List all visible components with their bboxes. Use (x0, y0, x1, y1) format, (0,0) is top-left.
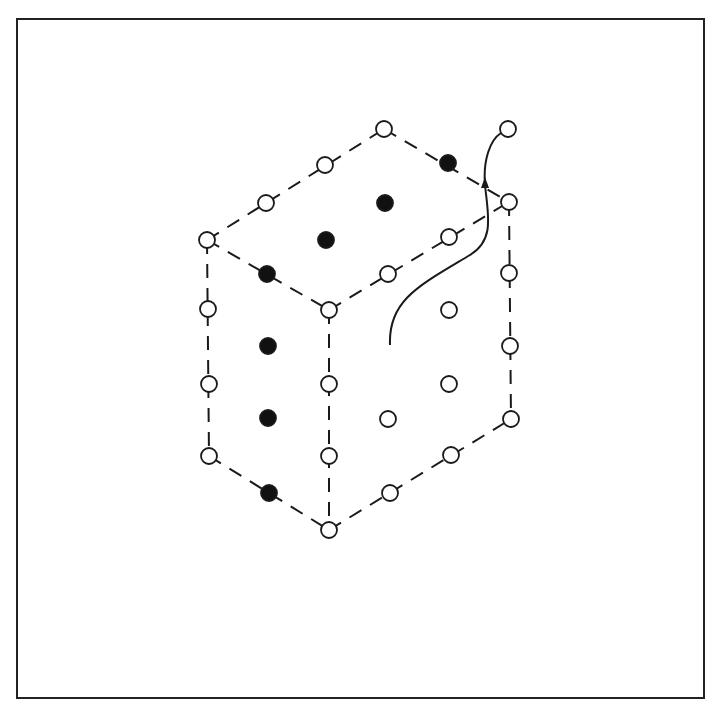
open-node-icon (258, 195, 274, 211)
open-node-icon (201, 376, 217, 392)
open-node-icon (441, 376, 457, 392)
open-node-icon (382, 485, 398, 501)
dashed-edge (329, 419, 511, 530)
filled-node-icon (377, 195, 393, 211)
open-node-icon (380, 266, 396, 282)
open-node-icon (321, 448, 337, 464)
filled-node-icon (318, 232, 334, 248)
open-node-icon (441, 229, 457, 245)
dashed-edge (509, 202, 511, 419)
filled-node-icon (261, 485, 277, 501)
filled-node-icon (260, 410, 276, 426)
open-node-icon (200, 301, 216, 317)
open-node-icon (321, 522, 337, 538)
open-node-icon (317, 157, 333, 173)
open-node-icon (441, 302, 457, 318)
dashed-edge (329, 202, 509, 310)
filled-node-icon (259, 266, 275, 282)
open-node-icon (502, 338, 518, 354)
open-node-icon (376, 121, 392, 137)
open-node-icon (501, 194, 517, 210)
filled-node-icon (440, 155, 456, 171)
lattice-nodes (199, 121, 519, 538)
arrowhead-icon (481, 177, 489, 188)
open-node-icon (503, 411, 519, 427)
filled-node-icon (260, 338, 276, 354)
open-node-icon (443, 447, 459, 463)
lattice-diagram (0, 0, 722, 712)
open-node-icon (321, 302, 337, 318)
open-node-icon (199, 232, 215, 248)
open-node-icon (500, 121, 516, 137)
open-node-icon (201, 448, 217, 464)
lattice-edges (207, 129, 511, 530)
dashed-edge (207, 129, 384, 240)
dashed-edge (207, 240, 209, 456)
open-node-icon (501, 265, 517, 281)
open-node-icon (321, 376, 337, 392)
open-node-icon (380, 411, 396, 427)
